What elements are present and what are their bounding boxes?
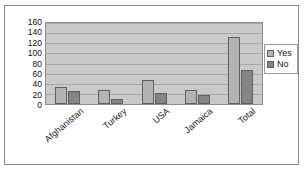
bar-no-turkey xyxy=(111,99,123,104)
chart-frame: 160140120100806040200 AfghanistanTurkeyU… xyxy=(4,5,299,165)
legend-swatch-icon xyxy=(267,50,274,57)
bar-no-afghanistan xyxy=(68,91,80,104)
legend-item-yes: Yes xyxy=(267,49,296,58)
chart-legend: YesNo xyxy=(264,44,298,74)
bar-yes-jamaica xyxy=(185,90,197,104)
gridline xyxy=(46,23,262,24)
legend-label: No xyxy=(277,60,289,69)
bar-yes-total xyxy=(228,37,240,104)
bar-yes-turkey xyxy=(98,90,110,104)
y-axis-tick-label: 140 xyxy=(28,28,42,36)
bar-no-usa xyxy=(155,93,167,104)
bar-yes-afghanistan xyxy=(55,87,67,104)
y-axis-tick-label: 0 xyxy=(37,101,42,109)
bar-yes-usa xyxy=(142,80,154,104)
legend-item-no: No xyxy=(267,60,296,69)
plot-area xyxy=(45,22,263,105)
y-axis-tick-label: 120 xyxy=(28,39,42,47)
legend-swatch-icon xyxy=(267,61,274,68)
x-axis-category-labels: AfghanistanTurkeyUSAJamaicaTotal xyxy=(45,106,263,164)
chart-title xyxy=(5,2,298,7)
bar-no-total xyxy=(241,70,253,104)
legend-label: Yes xyxy=(277,49,292,58)
y-axis: 160140120100806040200 xyxy=(15,18,42,110)
y-axis-tick-label: 40 xyxy=(33,80,42,88)
gridline xyxy=(46,33,262,34)
y-axis-tick-label: 160 xyxy=(28,18,42,26)
y-axis-tick-label: 60 xyxy=(33,70,42,78)
y-axis-tick-label: 80 xyxy=(33,60,42,68)
y-axis-tick-label: 100 xyxy=(28,49,42,57)
bar-no-jamaica xyxy=(198,95,210,104)
y-axis-tick-label: 20 xyxy=(33,91,42,99)
